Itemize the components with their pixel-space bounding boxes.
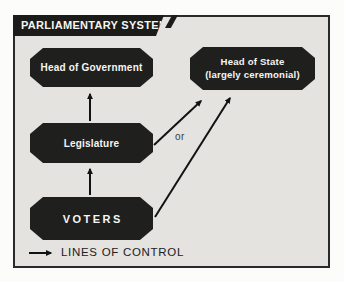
node-voters: VOTERS bbox=[30, 197, 153, 240]
node-voters-label: VOTERS bbox=[60, 213, 123, 225]
node-head-of-government: Head of Government bbox=[30, 48, 153, 87]
node-head-of-state-line1: Head of State bbox=[221, 56, 285, 68]
node-head-of-state-line2: (largely ceremonial) bbox=[205, 69, 300, 81]
title-banner: PARLIAMENTARY SYSTEMS bbox=[13, 15, 164, 36]
node-legislature: Legislature bbox=[30, 123, 153, 163]
node-legislature-label: Legislature bbox=[64, 138, 120, 149]
node-head-of-government-label: Head of Government bbox=[41, 62, 143, 73]
panel-title: PARLIAMENTARY SYSTEMS bbox=[21, 19, 176, 31]
or-label: or bbox=[175, 131, 185, 142]
legend-label: LINES OF CONTROL bbox=[61, 246, 184, 258]
page: PARLIAMENTARY SYSTEMS Head of Government… bbox=[0, 0, 344, 282]
node-head-of-state: Head of State (largely ceremonial) bbox=[190, 47, 315, 90]
